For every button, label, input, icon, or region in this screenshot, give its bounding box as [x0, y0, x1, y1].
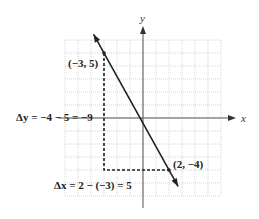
delta-x-label: Δx = 2 − (−3) = 5 — [54, 179, 132, 192]
y-axis-arrow-icon — [140, 26, 146, 34]
point-label-2: (2, −4) — [173, 158, 203, 171]
arrowhead-icon — [172, 178, 179, 186]
x-axis-arrow-icon — [228, 115, 236, 121]
arrowhead-icon — [94, 34, 101, 42]
line — [94, 34, 179, 186]
point-marker — [102, 51, 106, 55]
y-axis-label: y — [139, 12, 145, 24]
coordinate-plane: x y (−3, 5) (2, −4) Δy = −4 − 5 = −9 Δx … — [0, 0, 259, 219]
x-axis-label: x — [240, 112, 246, 124]
delta-y-label: Δy = −4 − 5 = −9 — [16, 111, 93, 123]
point-marker — [167, 168, 171, 172]
slope-line — [94, 34, 179, 186]
point-label-1: (−3, 5) — [68, 57, 98, 70]
